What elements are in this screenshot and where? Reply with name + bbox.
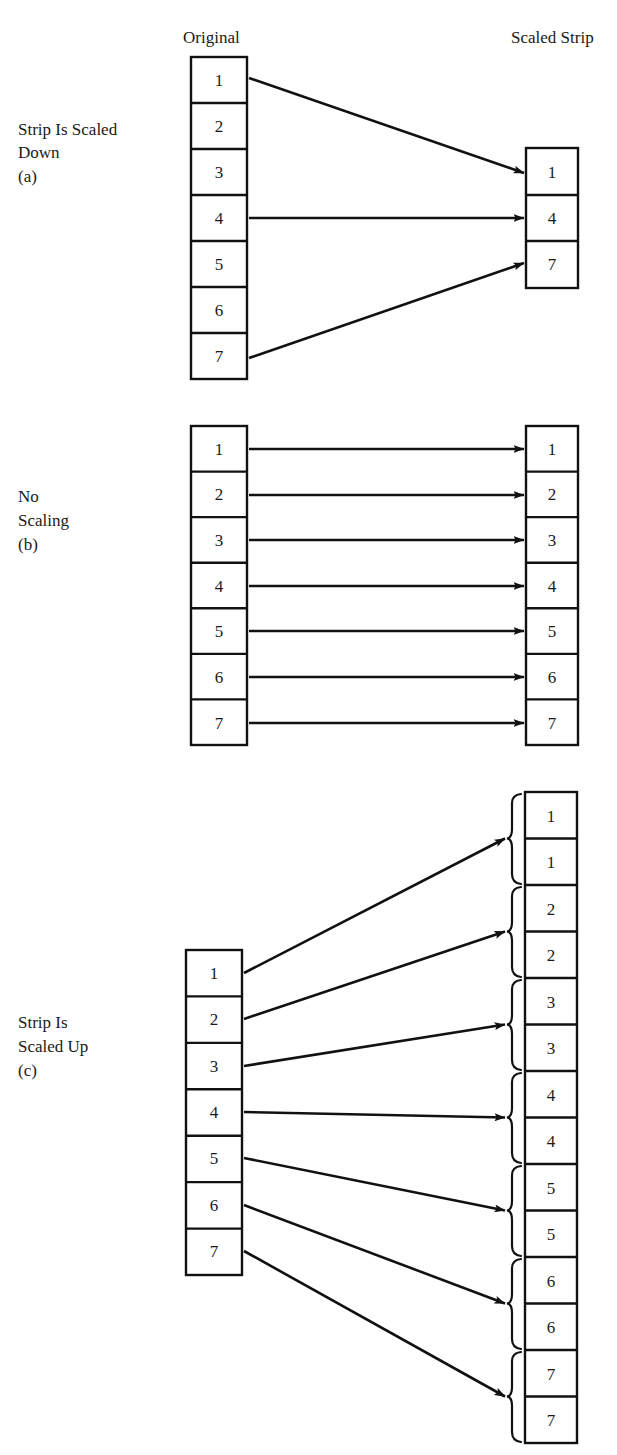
panel-b-scaled-strip: 1 2 3 4 5 6 7 — [526, 426, 578, 745]
panel-c-mapping-arrows — [244, 839, 505, 1397]
original-cell: 2 — [215, 117, 224, 136]
scaled-cell: 2 — [547, 900, 556, 919]
panel-c-braces — [507, 794, 521, 1442]
original-cell: 6 — [215, 301, 224, 320]
scaled-cell: 1 — [547, 853, 556, 872]
panel-c-scaled-strip: 1 1 2 2 3 3 4 4 5 5 6 6 7 7 — [525, 792, 577, 1443]
strip-scaling-diagram: Original Scaled Strip Strip Is Scaled Do… — [0, 0, 617, 1455]
scaled-cell: 3 — [547, 993, 556, 1012]
scaled-cell: 3 — [547, 1039, 556, 1058]
original-cell: 7 — [215, 347, 224, 366]
scaled-cell: 1 — [548, 163, 557, 182]
original-cell: 1 — [210, 964, 219, 983]
panel-a-label-line-2: Down — [18, 143, 60, 162]
original-cell: 4 — [210, 1103, 219, 1122]
mapping-arrow — [244, 839, 505, 974]
original-cell: 7 — [210, 1242, 219, 1261]
mapping-arrow — [249, 263, 524, 358]
scaled-cell: 1 — [548, 440, 557, 459]
panel-a-label: Strip Is Scaled Down (a) — [18, 120, 118, 186]
panel-b-mapping-arrows — [249, 449, 524, 723]
scaled-cell: 2 — [547, 946, 556, 965]
mapping-arrow — [249, 78, 524, 173]
group-brace — [507, 1259, 521, 1349]
panel-b-label: No Scaling (b) — [18, 487, 69, 554]
panel-c-caption: (c) — [18, 1061, 37, 1080]
mapping-arrow — [244, 1025, 505, 1067]
original-cell: 6 — [210, 1196, 219, 1215]
original-cell: 4 — [215, 209, 224, 228]
panel-a: Strip Is Scaled Down (a) 1 2 3 4 5 6 7 — [18, 57, 578, 379]
original-cell: 6 — [215, 668, 224, 687]
original-cell: 2 — [210, 1010, 219, 1029]
panel-b-label-line-2: Scaling — [18, 511, 69, 530]
panel-c-label-line-1: Strip Is — [18, 1013, 68, 1032]
group-brace — [507, 1166, 521, 1256]
scaled-cell: 7 — [548, 255, 557, 274]
scaled-cell: 7 — [548, 714, 557, 733]
scaled-cell: 6 — [547, 1272, 556, 1291]
mapping-arrow — [244, 1158, 505, 1211]
panel-a-caption: (a) — [18, 167, 37, 186]
panel-c: Strip Is Scaled Up (c) 1 2 3 4 5 6 7 — [18, 792, 577, 1443]
scaled-cell: 4 — [548, 577, 557, 596]
scaled-cell: 4 — [547, 1086, 556, 1105]
mapping-arrow — [244, 1112, 505, 1118]
scaled-cell: 5 — [548, 622, 557, 641]
original-cell: 4 — [215, 577, 224, 596]
scaled-cell: 7 — [547, 1365, 556, 1384]
group-brace — [507, 1073, 521, 1163]
panel-a-scaled-strip: 1 4 7 — [526, 148, 578, 288]
original-cell: 5 — [215, 622, 224, 641]
original-cell: 2 — [215, 485, 224, 504]
mapping-arrow — [244, 1251, 505, 1397]
panel-a-label-line-1: Strip Is Scaled — [18, 120, 118, 139]
original-cell: 5 — [210, 1149, 219, 1168]
scaled-cell: 3 — [548, 531, 557, 550]
panel-c-label: Strip Is Scaled Up (c) — [18, 1013, 88, 1080]
scaled-cell: 5 — [547, 1225, 556, 1244]
scaled-cell: 5 — [547, 1179, 556, 1198]
panel-b-original-strip: 1 2 3 4 5 6 7 — [191, 426, 247, 745]
scaled-cell: 6 — [547, 1318, 556, 1337]
header-scaled-strip: Scaled Strip — [511, 28, 594, 47]
group-brace — [507, 794, 521, 884]
original-cell: 5 — [215, 255, 224, 274]
group-brace — [507, 1352, 521, 1442]
original-cell: 3 — [210, 1057, 219, 1076]
original-cell: 3 — [215, 531, 224, 550]
original-cell: 3 — [215, 163, 224, 182]
panel-b: No Scaling (b) 1 2 3 4 5 6 7 — [18, 426, 578, 745]
scaled-cell: 7 — [547, 1411, 556, 1430]
panel-c-original-strip: 1 2 3 4 5 6 7 — [186, 950, 242, 1275]
panel-b-caption: (b) — [18, 535, 38, 554]
panel-c-label-line-2: Scaled Up — [18, 1037, 88, 1056]
mapping-arrow — [244, 932, 505, 1020]
original-cell: 1 — [215, 71, 224, 90]
scaled-cell: 4 — [548, 209, 557, 228]
mapping-arrow — [244, 1205, 505, 1304]
group-brace — [507, 980, 521, 1070]
panel-b-label-line-1: No — [18, 487, 39, 506]
panel-a-mapping-arrows — [249, 78, 524, 358]
original-cell: 1 — [215, 440, 224, 459]
scaled-cell: 1 — [547, 807, 556, 826]
scaled-cell: 6 — [548, 668, 557, 687]
scaled-cell: 4 — [547, 1132, 556, 1151]
scaled-cell: 2 — [548, 485, 557, 504]
header-original: Original — [183, 28, 240, 47]
panel-a-original-strip: 1 2 3 4 5 6 7 — [191, 57, 247, 379]
group-brace — [507, 887, 521, 977]
original-cell: 7 — [215, 714, 224, 733]
